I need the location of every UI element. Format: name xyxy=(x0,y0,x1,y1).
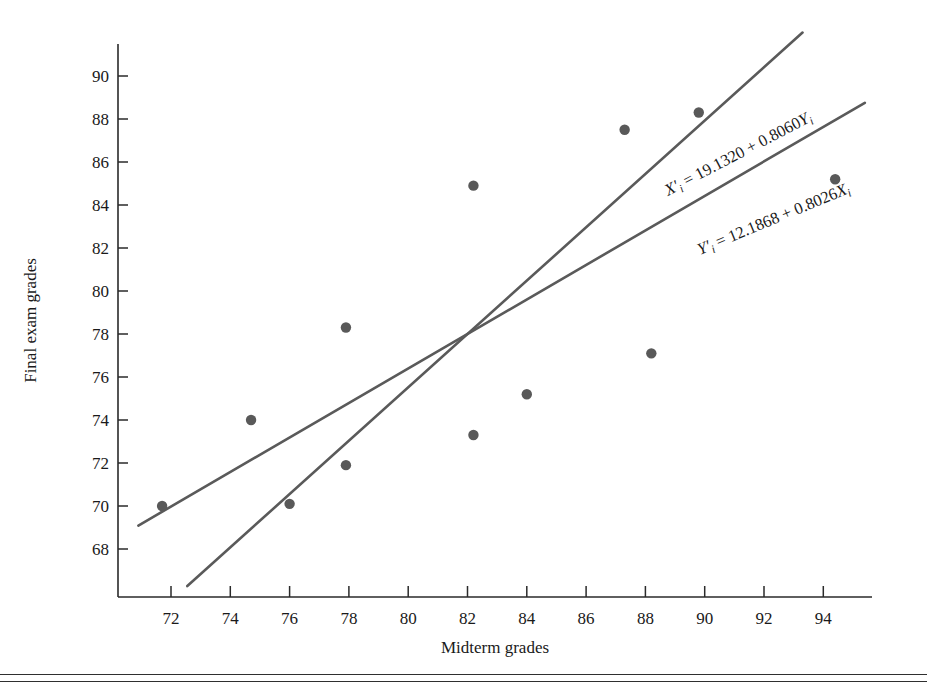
data-point xyxy=(157,501,167,511)
y-axis-tick-label: 80 xyxy=(92,282,109,301)
x-axis-tick-label: 88 xyxy=(637,609,654,628)
data-points xyxy=(157,107,840,511)
x-axis-tick-label: 76 xyxy=(281,609,298,628)
y-axis-tick-label: 76 xyxy=(92,368,109,387)
y-axis-tick-label: 72 xyxy=(92,454,109,473)
data-point xyxy=(341,460,351,470)
regression-lines xyxy=(138,33,864,587)
data-point xyxy=(468,430,478,440)
x-on-y-regression xyxy=(187,33,802,587)
footer-rule-bottom xyxy=(0,681,927,682)
data-point xyxy=(246,415,256,425)
x-axis-tick-label: 86 xyxy=(578,609,595,628)
y-axis-tick-label: 86 xyxy=(92,153,109,172)
y-axis-tick-label: 84 xyxy=(92,196,110,215)
equation-labels: X′i = 19.1320 + 0.8060YiY′i = 12.1868 + … xyxy=(660,107,853,260)
x-axis-tick-label: 78 xyxy=(340,609,357,628)
x-on-y-regression-equation: X′i = 19.1320 + 0.8060Yi xyxy=(660,107,815,201)
y-axis-tick-label: 78 xyxy=(92,325,109,344)
data-point xyxy=(341,322,351,332)
x-axis-tick-label: 84 xyxy=(518,609,536,628)
x-axis-tick-label: 72 xyxy=(163,609,180,628)
x-axis-tick-label: 94 xyxy=(815,609,833,628)
y-axis-tick-label: 70 xyxy=(92,497,109,516)
y-axis-tick-label: 68 xyxy=(92,540,109,559)
y-on-x-regression xyxy=(138,103,864,526)
x-axis-tick-label: 80 xyxy=(400,609,417,628)
axes: 6870727476788082848688907274767880828486… xyxy=(92,44,872,628)
y-axis-title: Final exam grades xyxy=(21,258,40,383)
data-point xyxy=(646,348,656,358)
y-axis-tick-label: 90 xyxy=(92,67,109,86)
x-axis-tick-label: 92 xyxy=(756,609,773,628)
data-point xyxy=(694,107,704,117)
data-point xyxy=(284,499,294,509)
data-point xyxy=(468,180,478,190)
y-axis-tick-label: 82 xyxy=(92,239,109,258)
chart-canvas: 6870727476788082848688907274767880828486… xyxy=(0,0,927,697)
x-axis-tick-label: 82 xyxy=(459,609,476,628)
y-on-x-regression-equation: Y′i = 12.1868 + 0.8026Xi xyxy=(694,179,853,260)
data-point xyxy=(619,125,629,135)
x-axis-tick-label: 90 xyxy=(696,609,713,628)
y-axis-tick-label: 74 xyxy=(92,411,110,430)
x-axis-title: Midterm grades xyxy=(441,638,549,657)
x-axis-tick-label: 74 xyxy=(222,609,240,628)
y-axis-tick-label: 88 xyxy=(92,110,109,129)
scatter-plot-figure: 6870727476788082848688907274767880828486… xyxy=(0,0,927,697)
footer-rule-top xyxy=(0,674,927,675)
data-point xyxy=(522,389,532,399)
